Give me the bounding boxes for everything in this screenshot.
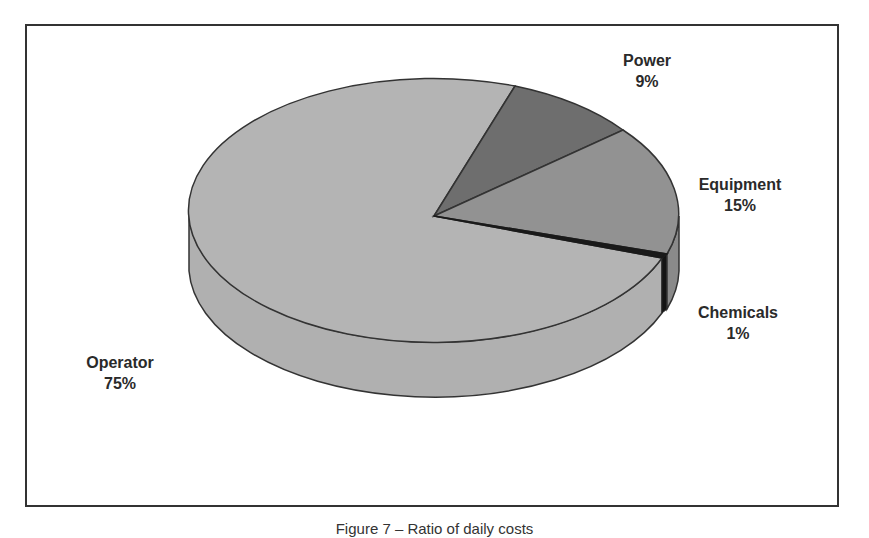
label-equipment-name: Equipment <box>680 174 800 195</box>
pie-top <box>188 78 678 342</box>
label-operator-pct: 75% <box>60 373 180 394</box>
label-power-pct: 9% <box>592 71 702 92</box>
label-chemicals-pct: 1% <box>678 323 798 344</box>
label-chemicals-name: Chemicals <box>678 302 798 323</box>
label-equipment-pct: 15% <box>680 195 800 216</box>
label-operator: Operator 75% <box>60 352 180 394</box>
pie-chart <box>0 0 869 538</box>
label-equipment: Equipment 15% <box>680 174 800 216</box>
label-power-name: Power <box>592 50 702 71</box>
label-operator-name: Operator <box>60 352 180 373</box>
label-power: Power 9% <box>592 50 702 92</box>
figure-caption: Figure 7 – Ratio of daily costs <box>0 520 869 537</box>
label-chemicals: Chemicals 1% <box>678 302 798 344</box>
